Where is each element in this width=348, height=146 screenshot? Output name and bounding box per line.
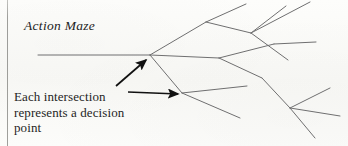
caption-line-1: Each intersection [14, 89, 124, 105]
figure-page: Action Maze Each intersection represents… [0, 0, 348, 146]
caption-line-2: represents a decision [14, 105, 124, 121]
caption-line-3: point [14, 120, 124, 136]
figure-caption: Each intersection represents a decision … [14, 89, 124, 136]
arrow-lines [116, 60, 178, 94]
arrow-to-root-node [116, 60, 146, 86]
arrow-to-lower-node [128, 92, 178, 94]
